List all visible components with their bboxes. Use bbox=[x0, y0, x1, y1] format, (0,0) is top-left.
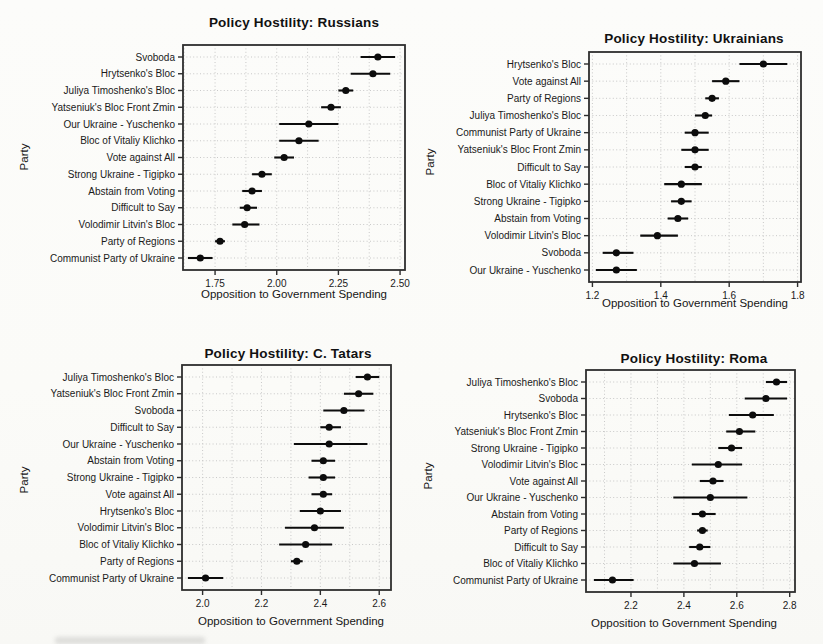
data-point bbox=[613, 266, 620, 273]
data-point bbox=[691, 560, 698, 567]
party-tick-label: Communist Party of Ukraine bbox=[49, 573, 174, 584]
data-point bbox=[773, 378, 780, 385]
dot-plots-canvas: SvobodaHrytsenko's BlocJuliya Timoshenko… bbox=[0, 0, 823, 644]
party-tick-label: Strong Ukraine - Tigipko bbox=[68, 169, 176, 180]
party-tick-label: Juliya Timoshenko's Bloc bbox=[470, 110, 581, 121]
x-axis-label-roma: Opposition to Government Spending bbox=[591, 617, 777, 629]
x-tick-label: 2.0 bbox=[196, 598, 210, 609]
x-tick-label: 2.2 bbox=[255, 598, 269, 609]
panel-2: Juliya Timoshenko's BlocYatseniuk's Bloc… bbox=[49, 365, 391, 609]
x-tick-label: 1.2 bbox=[585, 290, 599, 301]
data-point bbox=[654, 232, 661, 239]
data-point bbox=[305, 120, 312, 127]
party-tick-label: Party of Regions bbox=[507, 93, 581, 104]
data-point bbox=[760, 60, 767, 67]
party-tick-label: Juliya Timoshenko's Bloc bbox=[467, 377, 578, 388]
x-axis-label-ukrainians: Opposition to Government Spending bbox=[602, 297, 788, 309]
party-tick-label: Difficult to Say bbox=[514, 542, 578, 553]
data-point bbox=[241, 221, 248, 228]
party-tick-label: Strong Ukraine - Tigipko bbox=[471, 443, 579, 454]
data-point bbox=[320, 474, 327, 481]
data-point bbox=[674, 215, 681, 222]
data-point bbox=[749, 411, 756, 418]
party-tick-label: Communist Party of Ukraine bbox=[453, 575, 578, 586]
data-point bbox=[311, 524, 318, 531]
party-tick-label: Volodimir Litvin's Bloc bbox=[485, 230, 581, 241]
party-tick-label: Volodimir Litvin's Bloc bbox=[79, 219, 175, 230]
x-tick-label: 2.4 bbox=[677, 600, 691, 611]
scan-artifact bbox=[55, 637, 205, 644]
data-point bbox=[302, 541, 309, 548]
party-tick-label: Strong Ukraine - Tigipko bbox=[474, 196, 582, 207]
party-tick-label: Juliya Timoshenko's Bloc bbox=[63, 372, 174, 383]
x-tick-label: 2.50 bbox=[390, 278, 410, 289]
party-tick-label: Volodimir Litvin's Bloc bbox=[78, 522, 174, 533]
party-tick-label: Difficult to Say bbox=[110, 422, 174, 433]
data-point bbox=[293, 558, 300, 565]
party-tick-label: Communist Party of Ukraine bbox=[50, 253, 175, 264]
data-point bbox=[202, 574, 209, 581]
party-tick-label: Party of Regions bbox=[504, 525, 578, 536]
data-point bbox=[340, 407, 347, 414]
data-point bbox=[722, 78, 729, 85]
party-tick-label: Party of Regions bbox=[101, 236, 175, 247]
party-tick-label: Svoboda bbox=[136, 52, 176, 63]
data-point bbox=[678, 181, 685, 188]
party-tick-label: Bloc of Vitaliy Klichko bbox=[79, 539, 174, 550]
chart-title-roma: Policy Hostility: Roma bbox=[621, 351, 768, 366]
party-tick-label: Svoboda bbox=[135, 405, 175, 416]
data-point bbox=[696, 543, 703, 550]
party-tick-label: Vote against All bbox=[107, 152, 175, 163]
party-tick-label: Svoboda bbox=[539, 393, 579, 404]
data-point bbox=[678, 198, 685, 205]
party-tick-label: Abstain from Voting bbox=[88, 186, 175, 197]
data-point bbox=[320, 457, 327, 464]
party-tick-label: Yatseniuk's Bloc Front Zmin bbox=[51, 388, 174, 399]
party-tick-label: Abstain from Voting bbox=[494, 213, 581, 224]
chart-title-c-tatars: Policy Hostility: C. Tatars bbox=[204, 346, 371, 361]
party-tick-label: Bloc of Vitaliy Klichko bbox=[80, 135, 175, 146]
data-point bbox=[715, 461, 722, 468]
party-tick-label: Yatseniuk's Bloc Front Zmin bbox=[455, 426, 578, 437]
data-point bbox=[708, 95, 715, 102]
data-point bbox=[736, 428, 743, 435]
data-point bbox=[355, 390, 362, 397]
data-point bbox=[702, 112, 709, 119]
data-point bbox=[728, 444, 735, 451]
party-tick-label: Strong Ukraine - Tigipko bbox=[67, 472, 175, 483]
data-point bbox=[369, 70, 376, 77]
figure-policy-hostility-panels: SvobodaHrytsenko's BlocJuliya Timoshenko… bbox=[0, 0, 823, 644]
party-tick-label: Hrytsenko's Bloc bbox=[504, 410, 578, 421]
data-point bbox=[613, 249, 620, 256]
x-tick-label: 2.8 bbox=[783, 600, 797, 611]
data-point bbox=[248, 187, 255, 194]
data-point bbox=[762, 395, 769, 402]
y-axis-label-roma: Party bbox=[422, 463, 434, 490]
data-point bbox=[317, 507, 324, 514]
party-tick-label: Party of Regions bbox=[100, 556, 174, 567]
party-tick-label: Yatseniuk's Bloc Front Zmin bbox=[458, 144, 581, 155]
data-point bbox=[374, 53, 381, 60]
party-tick-label: Bloc of Vitaliy Klichko bbox=[486, 179, 581, 190]
panel-1: Hrytsenko's BlocVote against AllParty of… bbox=[456, 52, 805, 301]
party-tick-label: Juliya Timoshenko's Bloc bbox=[64, 85, 175, 96]
data-point bbox=[216, 238, 223, 245]
x-tick-label: 2.4 bbox=[313, 598, 327, 609]
party-tick-label: Volodimir Litvin's Bloc bbox=[482, 459, 578, 470]
data-point bbox=[699, 527, 706, 534]
data-point bbox=[691, 146, 698, 153]
party-tick-label: Our Ukraine - Yuschenko bbox=[62, 439, 174, 450]
party-tick-label: Our Ukraine - Yuschenko bbox=[466, 492, 578, 503]
data-point bbox=[258, 171, 265, 178]
x-tick-label: 2.6 bbox=[372, 598, 386, 609]
x-axis-label-russians: Opposition to Government Spending bbox=[201, 288, 387, 300]
party-tick-label: Vote against All bbox=[106, 489, 174, 500]
chart-title-ukrainians: Policy Hostility: Ukrainians bbox=[604, 31, 784, 46]
party-tick-label: Svoboda bbox=[542, 247, 582, 258]
party-tick-label: Abstain from Voting bbox=[491, 509, 578, 520]
party-tick-label: Yatseniuk's Bloc Front Zmin bbox=[52, 102, 175, 113]
party-tick-label: Abstain from Voting bbox=[87, 455, 174, 466]
data-point bbox=[326, 424, 333, 431]
party-tick-label: Vote against All bbox=[513, 76, 581, 87]
x-tick-label: 2.2 bbox=[624, 600, 638, 611]
